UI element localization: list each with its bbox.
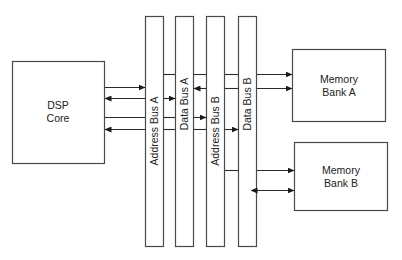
memory-a-label-2: Bank A: [322, 86, 355, 98]
data-bus-a-label: Data Bus A: [178, 78, 190, 131]
data-bus-b: Data Bus B: [239, 17, 257, 247]
memory-bank-b-block: Memory Bank B: [295, 143, 388, 211]
dsp-connections: [105, 88, 145, 130]
dsp-core-label-1: DSP: [47, 99, 69, 111]
data-bus-b-label: Data Bus B: [241, 77, 253, 130]
address-bus-b: Address Bus B: [207, 17, 225, 247]
address-bus-b-label: Address Bus B: [209, 96, 221, 165]
memory-bank-a-block: Memory Bank A: [293, 50, 386, 122]
bus-b-connections: [225, 75, 238, 171]
dsp-core-block: DSP Core: [13, 62, 105, 164]
address-bus-a-label: Address Bus A: [148, 97, 160, 166]
memory-a-label-1: Memory: [320, 73, 359, 85]
address-bus-a: Address Bus A: [146, 17, 164, 247]
memory-b-connections: [257, 171, 294, 191]
dsp-core-label-2: Core: [47, 112, 70, 124]
bus-a-connections: [164, 75, 175, 130]
memory-a-connections: [257, 75, 292, 89]
memory-b-label-2: Bank B: [324, 177, 358, 189]
dsp-memory-bus-diagram: DSP Core Address Bus A Data Bus A Addres…: [0, 0, 402, 260]
data-bus-a: Data Bus A: [176, 17, 194, 247]
memory-b-label-1: Memory: [322, 164, 361, 176]
bus-ab-connections: [194, 75, 206, 130]
